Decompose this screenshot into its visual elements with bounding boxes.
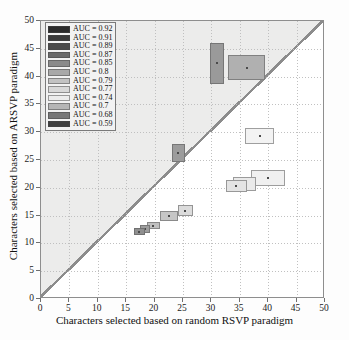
x-tick-label: 40: [262, 303, 272, 313]
data-point-center: [235, 185, 237, 187]
data-marker: [245, 128, 275, 145]
x-tick-mark: [68, 298, 69, 302]
y-tick-mark: [36, 298, 40, 299]
legend-color-swatch: [48, 35, 70, 42]
gridline-vertical: [268, 21, 269, 297]
data-marker: [210, 43, 225, 84]
y-tick-mark: [36, 20, 40, 21]
legend-color-swatch: [48, 95, 70, 102]
y-tick-mark: [36, 270, 40, 271]
legend: AUC = 0.92AUC = 0.91AUC = 0.89AUC = 0.87…: [45, 22, 116, 131]
legend-color-swatch: [48, 60, 70, 67]
data-marker: [178, 205, 193, 216]
gridline-horizontal: [41, 132, 323, 133]
y-axis-label: Characters selected based on ARSVP parad…: [7, 26, 19, 286]
gridline-vertical: [297, 21, 298, 297]
x-tick-label: 50: [319, 303, 329, 313]
y-tick-label: 0: [8, 293, 34, 303]
gridline-vertical: [126, 21, 127, 297]
data-point-center: [259, 135, 261, 137]
data-point-center: [267, 177, 269, 179]
legend-color-swatch: [48, 26, 70, 33]
y-tick-mark: [36, 76, 40, 77]
x-tick-mark: [182, 298, 183, 302]
y-tick-mark: [36, 103, 40, 104]
y-tick-mark: [36, 242, 40, 243]
x-tick-label: 35: [234, 303, 244, 313]
data-marker: [228, 55, 264, 81]
legend-color-swatch: [48, 121, 70, 128]
data-point-center: [184, 210, 186, 212]
data-marker: [226, 180, 246, 192]
x-tick-mark: [40, 298, 41, 302]
legend-item: AUC = 0.59: [48, 120, 112, 129]
y-tick-mark: [36, 48, 40, 49]
x-tick-label: 20: [149, 303, 159, 313]
data-point-center: [152, 225, 154, 227]
x-tick-mark: [324, 298, 325, 302]
legend-color-swatch: [48, 112, 70, 119]
x-tick-label: 45: [291, 303, 301, 313]
x-tick-mark: [154, 298, 155, 302]
gridline-horizontal: [41, 243, 323, 244]
x-tick-label: 30: [206, 303, 216, 313]
legend-color-swatch: [48, 69, 70, 76]
x-tick-label: 0: [38, 303, 43, 313]
x-tick-mark: [239, 298, 240, 302]
y-tick-mark: [36, 187, 40, 188]
y-tick-mark: [36, 215, 40, 216]
data-marker: [160, 211, 178, 220]
data-point-center: [138, 231, 140, 233]
y-tick-label: 50: [8, 15, 34, 25]
y-tick-mark: [36, 131, 40, 132]
legend-color-swatch: [48, 86, 70, 93]
gridline-horizontal: [41, 188, 323, 189]
data-point-center: [177, 152, 179, 154]
legend-color-swatch: [48, 43, 70, 50]
x-tick-mark: [267, 298, 268, 302]
x-tick-mark: [125, 298, 126, 302]
data-marker: [172, 144, 185, 162]
legend-color-swatch: [48, 103, 70, 110]
legend-item-label: AUC = 0.59: [73, 120, 112, 129]
gridline-horizontal: [41, 271, 323, 272]
x-tick-mark: [296, 298, 297, 302]
data-point-center: [168, 215, 170, 217]
data-marker: [134, 228, 145, 235]
data-point-center: [216, 62, 218, 64]
figure-canvas: 05101520253035404550 0510152025303540455…: [0, 0, 349, 340]
x-tick-mark: [97, 298, 98, 302]
data-point-center: [246, 67, 248, 69]
x-tick-label: 5: [66, 303, 71, 313]
x-axis-label: Characters selected based on random RSVP…: [0, 314, 349, 326]
legend-color-swatch: [48, 52, 70, 59]
gridline-vertical: [155, 21, 156, 297]
data-marker: [251, 170, 285, 186]
x-tick-label: 15: [120, 303, 130, 313]
x-tick-label: 25: [177, 303, 187, 313]
x-tick-label: 10: [92, 303, 102, 313]
x-tick-mark: [210, 298, 211, 302]
legend-color-swatch: [48, 78, 70, 85]
y-tick-mark: [36, 159, 40, 160]
